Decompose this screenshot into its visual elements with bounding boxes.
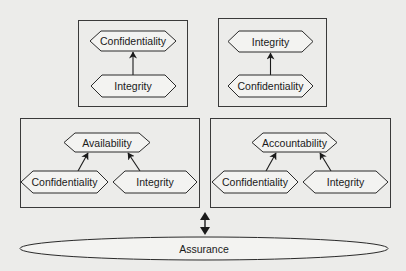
- node-integrity: Integrity: [228, 31, 313, 52]
- panel-frame: [21, 119, 200, 208]
- node-integrity: Integrity: [303, 171, 388, 193]
- node-assurance: Assurance: [20, 237, 388, 260]
- node-availability: Availability: [64, 133, 150, 152]
- node-integrity: Integrity: [91, 75, 176, 97]
- node-label: Integrity: [136, 176, 174, 188]
- diagram-canvas: Confidentiality Integrity Integrity Conf…: [0, 0, 406, 271]
- node-label: Integrity: [327, 176, 365, 188]
- arrow-up-left-icon: [320, 153, 331, 171]
- node-label: Integrity: [114, 80, 152, 92]
- node-label: Confidentiality: [100, 35, 167, 47]
- panel-top-right: Integrity Confidentiality: [219, 19, 327, 107]
- node-confidentiality: Confidentiality: [21, 171, 108, 193]
- node-confidentiality: Confidentiality: [90, 31, 176, 51]
- node-label: Confidentiality: [32, 176, 99, 188]
- node-integrity: Integrity: [113, 171, 197, 193]
- arrow-up-right-icon: [266, 153, 276, 171]
- panel-top-left: Confidentiality Integrity: [79, 21, 188, 107]
- node-label: Assurance: [179, 243, 229, 255]
- node-confidentiality: Confidentiality: [212, 171, 298, 193]
- arrow-up-left-icon: [128, 153, 140, 171]
- panel-frame: [211, 119, 391, 208]
- node-label: Confidentiality: [222, 176, 289, 188]
- node-label: Confidentiality: [238, 80, 305, 92]
- node-label: Integrity: [252, 36, 290, 48]
- node-label: Availability: [82, 137, 132, 149]
- panel-bottom-left: Availability Confidentiality Integrity: [21, 119, 200, 208]
- panel-bottom-right: Accountability Confidentiality Integrity: [211, 119, 391, 208]
- node-label: Accountability: [262, 137, 328, 149]
- double-arrow-icon: [200, 212, 210, 235]
- arrow-up-right-icon: [78, 153, 88, 171]
- node-accountability: Accountability: [252, 133, 337, 152]
- node-confidentiality: Confidentiality: [228, 75, 313, 97]
